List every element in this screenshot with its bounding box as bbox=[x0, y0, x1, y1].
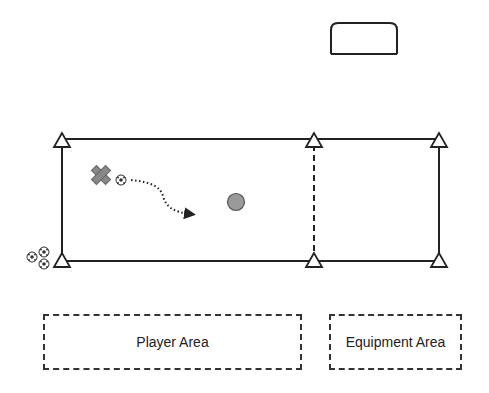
goal-icon bbox=[331, 23, 397, 54]
target-marker-icon bbox=[228, 194, 245, 211]
player-cross-icon bbox=[87, 161, 115, 189]
field-boundary bbox=[62, 139, 439, 261]
ball-supply-icon bbox=[27, 247, 49, 269]
equipment-area-label: Equipment Area bbox=[346, 334, 446, 350]
player-area: Player Area bbox=[43, 314, 302, 370]
soccer-ball-icon bbox=[116, 175, 126, 185]
player-area-label: Player Area bbox=[136, 334, 208, 350]
ball-path-arrow bbox=[131, 180, 190, 214]
equipment-area: Equipment Area bbox=[329, 314, 462, 370]
